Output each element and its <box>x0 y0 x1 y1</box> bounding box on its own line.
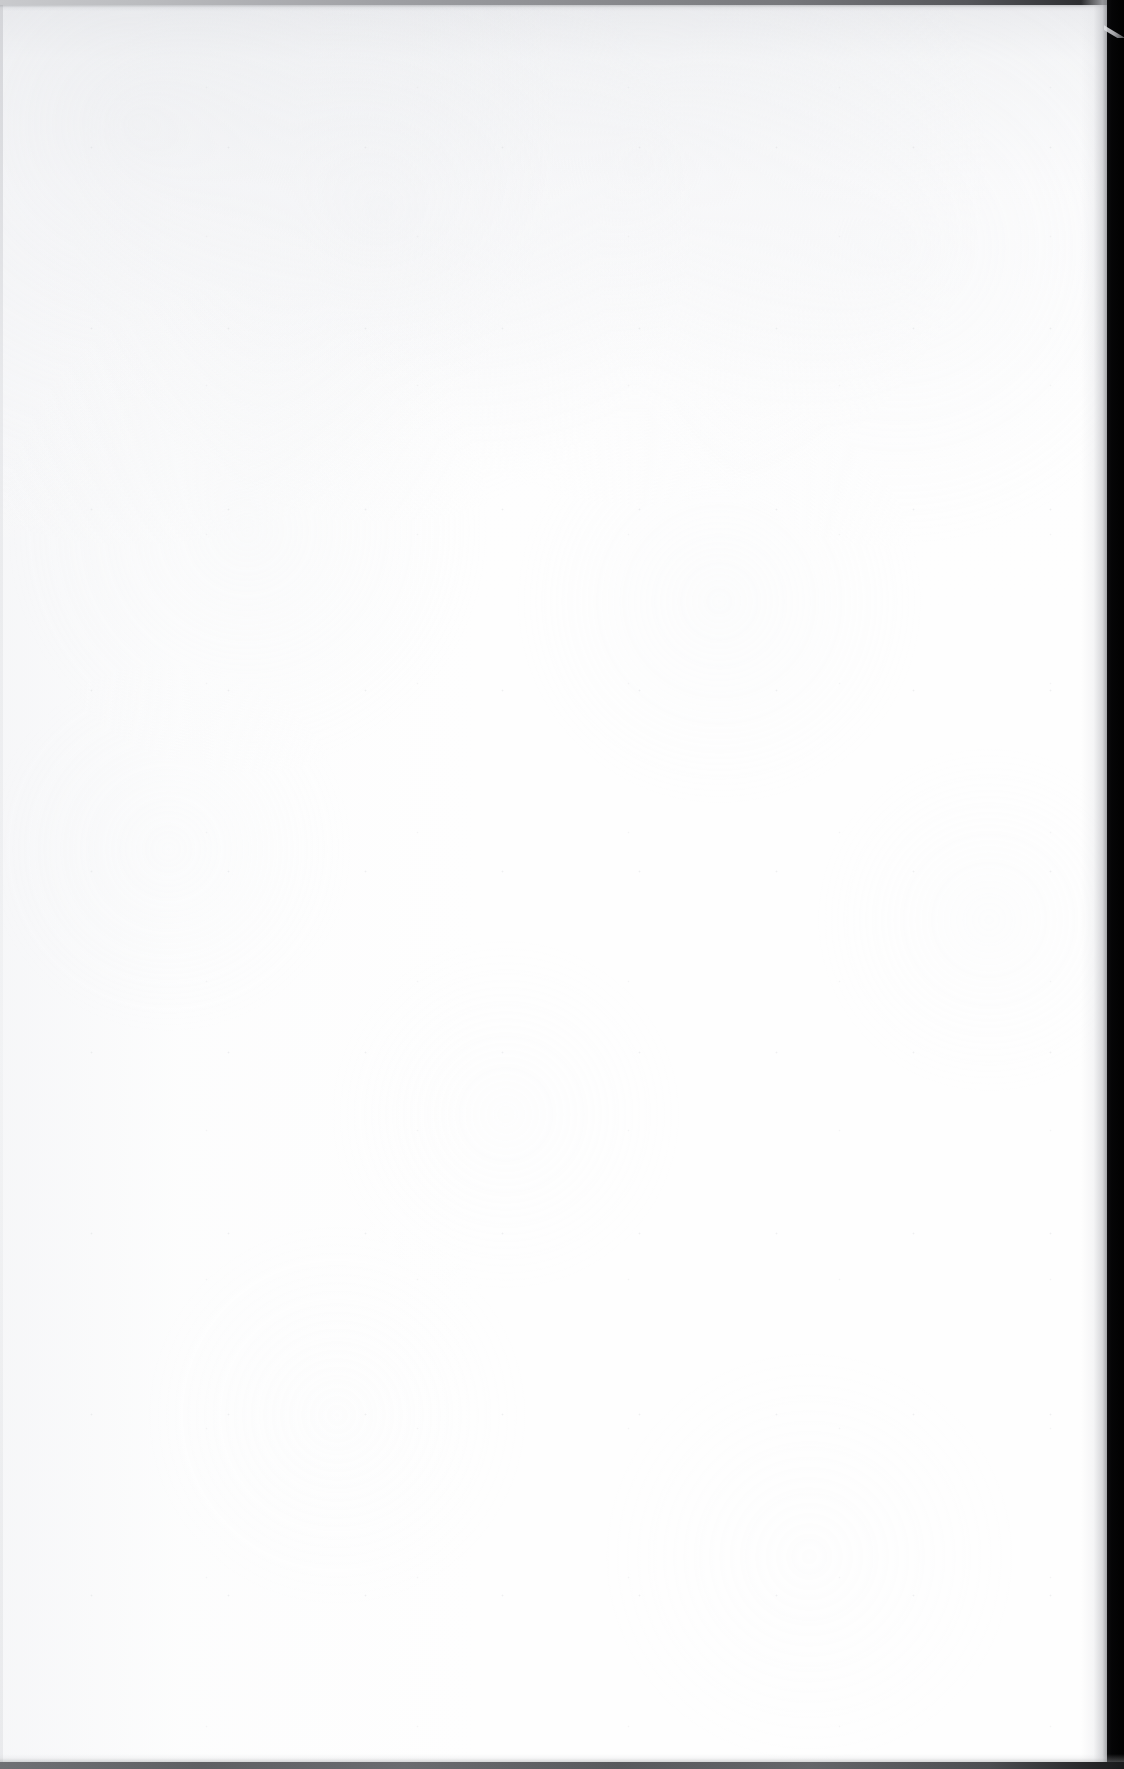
scanned-page <box>0 0 1124 1769</box>
right-edge-falloff <box>1081 0 1107 1769</box>
top-right-page-corner-curl-icon <box>1104 12 1124 38</box>
bottom-edge-feather <box>0 1754 1124 1762</box>
top-edge-feather <box>0 5 1124 11</box>
page-content-area <box>96 108 1036 1648</box>
left-trim-hairline <box>0 0 3 1769</box>
right-scanner-background <box>1107 0 1124 1769</box>
top-scanner-edge <box>0 0 1124 5</box>
bottom-scanner-edge <box>0 1762 1124 1769</box>
